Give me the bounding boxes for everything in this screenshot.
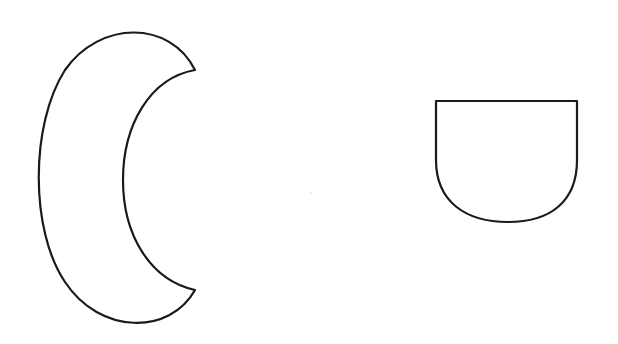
background-speck [310, 192, 312, 194]
crescent-shape [39, 33, 195, 323]
diagram-canvas [0, 0, 618, 344]
cup-shape [436, 101, 577, 222]
